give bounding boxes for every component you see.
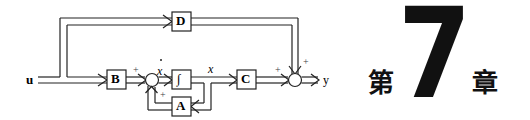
state-label-x: x <box>208 62 213 77</box>
sign-plus-b: + <box>133 64 139 75</box>
sign-plus-c: + <box>275 64 281 75</box>
sign-plus-a: + <box>160 89 166 100</box>
output-label-y: y <box>323 73 329 88</box>
block-A-label: A <box>176 98 185 114</box>
chapter-prefix: 第 <box>368 62 394 99</box>
chapter-suffix: 章 <box>472 62 498 99</box>
block-B-label: B <box>111 71 120 87</box>
chapter-number: 7 <box>398 0 471 116</box>
block-integrator-label: ∫ <box>177 71 181 87</box>
derivative-dot <box>160 59 162 61</box>
state-derivative-label: x <box>157 64 162 79</box>
block-C-label: C <box>241 71 250 87</box>
block-D-label: D <box>176 13 185 29</box>
input-label-u: u <box>26 72 33 88</box>
sign-plus-d: + <box>303 56 309 67</box>
